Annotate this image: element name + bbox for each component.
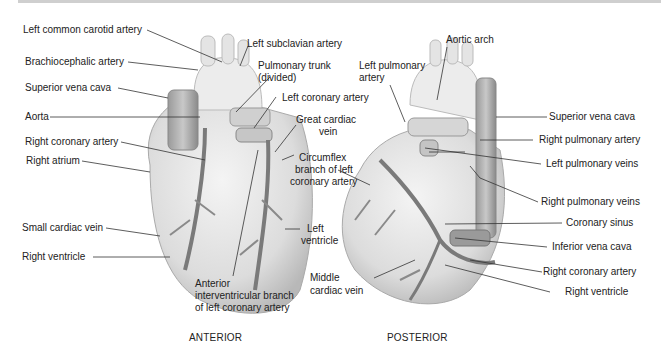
label-superior-vena-cava-posterior: Superior vena cava: [549, 111, 635, 123]
label-left-subclavian-artery: Left subclavian artery: [247, 38, 342, 50]
label-right-ventricle-posterior: Right ventricle: [565, 286, 628, 298]
label-right-atrium: Right atrium: [26, 155, 80, 167]
label-right-pulmonary-artery: Right pulmonary artery: [539, 134, 640, 146]
label-left-ventricle-2: ventricle: [301, 235, 338, 247]
label-left-pulmonary-veins: Left pulmonary veins: [546, 158, 638, 170]
label-aortic-arch: Aortic arch: [446, 34, 494, 46]
label-middle-cardiac-vein-1: Middle: [310, 272, 339, 284]
label-middle-cardiac-vein-2: cardiac vein: [310, 285, 363, 297]
caption-anterior: ANTERIOR: [189, 332, 242, 343]
label-left-pulmonary-artery-2: artery: [359, 72, 385, 84]
label-anterior-interventricular-2: interventricular branch: [195, 290, 294, 302]
label-left-ventricle-1: Left: [307, 223, 324, 235]
label-great-cardiac-vein-2: vein: [319, 126, 337, 138]
label-circumflex-branch-1: Circumflex: [299, 152, 346, 164]
label-pulmonary-trunk: Pulmonary trunk: [258, 60, 331, 72]
label-pulmonary-trunk-divided: (divided): [258, 72, 296, 84]
label-circumflex-branch-3: coronary artery: [290, 176, 357, 188]
caption-posterior: POSTERIOR: [387, 332, 448, 343]
label-left-common-carotid-artery: Left common carotid artery: [23, 24, 142, 36]
label-small-cardiac-vein: Small cardiac vein: [22, 222, 103, 234]
label-left-coronary-artery: Left coronary artery: [282, 92, 369, 104]
label-right-ventricle-anterior: Right ventricle: [22, 251, 85, 263]
label-circumflex-branch-2: branch of left: [295, 164, 353, 176]
label-superior-vena-cava-anterior: Superior vena cava: [25, 82, 111, 94]
label-anterior-interventricular-1: Anterior: [195, 278, 230, 290]
label-right-pulmonary-veins: Right pulmonary veins: [541, 196, 640, 208]
label-right-coronary-artery-anterior: Right coronary artery: [25, 136, 118, 148]
label-aorta: Aorta: [25, 111, 49, 123]
label-inferior-vena-cava: Inferior vena cava: [552, 241, 632, 253]
label-coronary-sinus: Coronary sinus: [566, 217, 633, 229]
label-right-coronary-artery-posterior: Right coronary artery: [543, 266, 636, 278]
label-left-pulmonary-artery-1: Left pulmonary: [359, 60, 425, 72]
label-great-cardiac-vein-1: Great cardiac: [296, 114, 356, 126]
label-anterior-interventricular-3: of left coronary artery: [195, 302, 289, 314]
label-brachiocephalic-artery: Brachiocephalic artery: [25, 56, 124, 68]
